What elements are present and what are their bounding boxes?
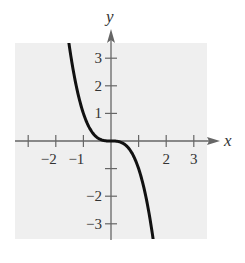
function-graph: x y −2−123321−2−3: [0, 0, 245, 263]
y-tick-label: −2: [86, 188, 102, 204]
y-tick-label: 3: [95, 50, 103, 66]
y-axis-label: y: [104, 7, 114, 26]
x-tick-label: 3: [190, 151, 198, 167]
y-tick-label: −3: [86, 216, 102, 232]
x-axis-label: x: [223, 131, 232, 150]
x-tick-label: −2: [41, 151, 57, 167]
x-tick-label: 2: [162, 151, 170, 167]
y-tick-label: 2: [95, 78, 103, 94]
y-tick-label: 1: [95, 105, 103, 121]
x-tick-label: −1: [68, 151, 84, 167]
